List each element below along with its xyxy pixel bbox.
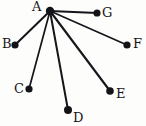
graph-node-label-d: D: [73, 111, 83, 124]
graph-node-label-f: F: [133, 37, 142, 50]
graph-edge-a-g: [50, 11, 97, 13]
graph-node-e[interactable]: [106, 87, 114, 95]
graph-node-label-e: E: [116, 87, 126, 100]
graph-node-c[interactable]: [25, 85, 32, 92]
graph-node-f[interactable]: [123, 41, 130, 48]
graph-canvas: [0, 0, 146, 126]
graph-node-label-b: B: [2, 37, 12, 50]
graph-node-b[interactable]: [11, 41, 18, 48]
nodes-group: [11, 7, 130, 114]
graph-node-label-a: A: [32, 0, 41, 13]
graph-node-d[interactable]: [64, 106, 72, 114]
graph-node-g[interactable]: [93, 9, 100, 16]
graph-node-a[interactable]: [46, 7, 54, 15]
graph-diagram: ABCDEFG: [0, 0, 146, 126]
graph-edge-a-c: [29, 11, 50, 89]
graph-node-label-g: G: [102, 6, 112, 19]
graph-edge-a-d: [50, 11, 68, 110]
edges-group: [15, 11, 127, 110]
graph-node-label-c: C: [14, 82, 24, 95]
graph-edge-a-e: [50, 11, 110, 91]
